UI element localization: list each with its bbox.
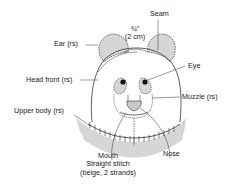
left-eye — [120, 79, 125, 84]
upper-body-label: Upper body (rs) — [14, 107, 64, 115]
mouth-label-line3: (beige, 2 strands) — [60, 169, 156, 177]
seam-label: Seam — [150, 10, 169, 18]
right-eye — [142, 79, 147, 84]
right-ear — [148, 34, 176, 62]
eye-label: Eye — [188, 62, 200, 70]
head-outline — [91, 48, 181, 122]
mouth — [120, 112, 148, 115]
nose — [127, 101, 141, 111]
nose-label: Nose — [163, 150, 180, 158]
muzzle-label: Muzzle (rs) — [182, 93, 218, 101]
measure-metric: (2 cm) — [120, 33, 150, 41]
ear-label: Ear (rs) — [54, 40, 78, 48]
measure-label: ¾" (2 cm) — [120, 25, 150, 42]
mouth-label: Mouth Straight stitch (beige, 2 strands) — [60, 152, 156, 177]
head-front-label: Head front (rs) — [26, 76, 72, 84]
